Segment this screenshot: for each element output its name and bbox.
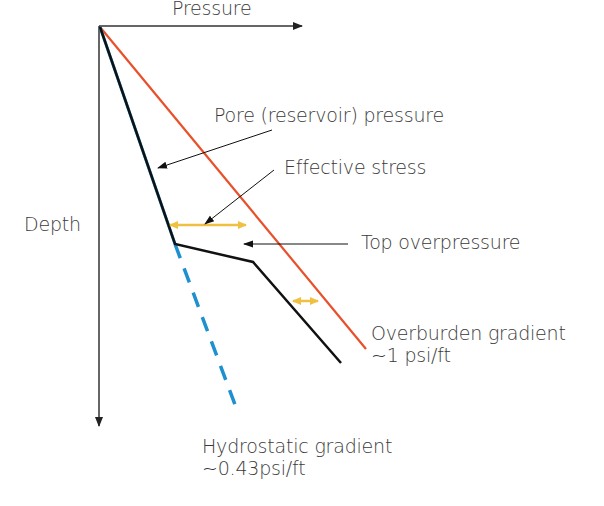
overburden-gradient-title: Overburden gradient bbox=[371, 323, 566, 345]
overburden-gradient-label: Overburden gradient ~1 psi/ft bbox=[371, 323, 566, 367]
depth-axis-label: Depth bbox=[24, 214, 81, 236]
hydrostatic-gradient-title: Hydrostatic gradient bbox=[202, 436, 392, 458]
pressure-axis-label: Pressure bbox=[172, 0, 252, 20]
pore-pressure-line bbox=[100, 27, 341, 363]
overburden-gradient-value: ~1 psi/ft bbox=[371, 345, 566, 367]
hydrostatic-gradient-value: ~0.43psi/ft bbox=[202, 458, 392, 480]
pressure-depth-diagram: Pressure Depth Pore (reservoir) pressure… bbox=[0, 0, 604, 506]
effective-stress-label: Effective stress bbox=[284, 157, 426, 179]
effective-stress-pointer bbox=[205, 170, 274, 224]
top-overpressure-label: Top overpressure bbox=[361, 232, 520, 254]
pore-pressure-label: Pore (reservoir) pressure bbox=[214, 105, 444, 127]
pore-pressure-pointer bbox=[158, 130, 272, 168]
overburden-gradient-line bbox=[100, 27, 366, 349]
hydrostatic-gradient-label: Hydrostatic gradient ~0.43psi/ft bbox=[202, 436, 392, 480]
hydrostatic-gradient-dashed bbox=[175, 244, 237, 410]
